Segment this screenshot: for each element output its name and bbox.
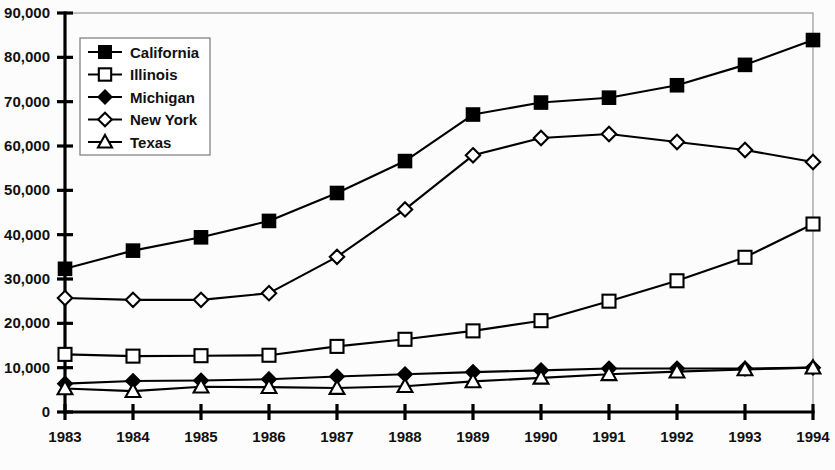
data-point-marker: [602, 127, 616, 141]
data-point-marker: [99, 46, 111, 58]
y-axis-tick-label: 70,000: [4, 93, 50, 110]
data-point-marker: [671, 274, 684, 287]
data-point-marker: [263, 349, 276, 362]
data-point-marker: [603, 91, 616, 104]
data-point-marker: [399, 333, 412, 346]
data-point-marker: [738, 143, 752, 157]
data-point-marker: [467, 108, 480, 121]
data-point-marker: [535, 96, 548, 109]
y-axis-tick-label: 20,000: [4, 314, 50, 331]
data-point-marker: [99, 68, 111, 80]
x-axis: 1983198419851986198719881989199019911992…: [48, 404, 830, 445]
data-point-marker: [127, 350, 140, 363]
series-michigan: [58, 360, 820, 390]
data-point-marker: [467, 324, 480, 337]
data-point-marker: [126, 293, 140, 307]
data-point-marker: [262, 286, 276, 300]
data-point-marker: [603, 295, 616, 308]
series-line: [65, 368, 813, 391]
y-axis-tick-label: 50,000: [4, 181, 50, 198]
data-point-marker: [331, 340, 344, 353]
data-point-marker: [59, 348, 72, 361]
chart-page: 010,00020,00030,00040,00050,00060,00070,…: [0, 0, 835, 470]
series-line: [65, 134, 813, 300]
data-point-marker: [263, 214, 276, 227]
x-axis-tick-label: 1983: [48, 428, 81, 445]
legend-item-label: Texas: [130, 134, 171, 151]
data-point-marker: [330, 250, 344, 264]
data-point-marker: [194, 293, 208, 307]
chart-legend: CaliforniaIllinoisMichiganNew YorkTexas: [80, 38, 210, 155]
data-point-marker: [127, 244, 140, 257]
data-point-marker: [399, 155, 412, 168]
data-point-marker: [58, 291, 72, 305]
x-axis-tick-label: 1987: [320, 428, 353, 445]
series-illinois: [59, 218, 820, 363]
x-axis-tick-label: 1992: [660, 428, 693, 445]
data-point-marker: [59, 262, 72, 275]
x-axis-tick-label: 1989: [456, 428, 489, 445]
series-line: [65, 224, 813, 356]
data-point-marker: [331, 186, 344, 199]
y-axis-tick-label: 0: [42, 403, 50, 420]
y-axis-tick-label: 90,000: [4, 4, 50, 21]
legend-item-california: California: [88, 44, 200, 61]
x-axis-tick-label: 1990: [524, 428, 557, 445]
x-axis-tick-label: 1985: [184, 428, 217, 445]
data-point-marker: [671, 79, 684, 92]
legend-item-illinois: Illinois: [88, 66, 178, 83]
legend-item-label: California: [130, 44, 200, 61]
y-axis-tick-label: 10,000: [4, 359, 50, 376]
legend-item-label: New York: [130, 111, 198, 128]
series-texas: [58, 360, 821, 397]
data-point-marker: [670, 135, 684, 149]
x-axis-tick-label: 1984: [116, 428, 150, 445]
legend-item-michigan: Michigan: [88, 89, 195, 106]
legend-item-label: Michigan: [130, 89, 195, 106]
x-axis-tick-label: 1988: [388, 428, 421, 445]
x-axis-tick-label: 1993: [728, 428, 761, 445]
data-point-marker: [534, 131, 548, 145]
y-axis-tick-label: 60,000: [4, 137, 50, 154]
x-axis-tick-label: 1986: [252, 428, 285, 445]
x-axis-tick-label: 1994: [796, 428, 830, 445]
data-point-marker: [739, 251, 752, 264]
y-axis-tick-label: 80,000: [4, 48, 50, 65]
data-point-marker: [739, 58, 752, 71]
data-point-marker: [535, 314, 548, 327]
data-point-marker: [195, 349, 208, 362]
data-point-marker: [806, 155, 820, 169]
y-axis-tick-label: 30,000: [4, 270, 50, 287]
x-axis-tick-label: 1991: [592, 428, 625, 445]
data-point-marker: [807, 34, 820, 47]
line-chart: 010,00020,00030,00040,00050,00060,00070,…: [0, 0, 835, 470]
legend-item-label: Illinois: [130, 66, 178, 83]
legend-item-new-york: New York: [88, 111, 198, 128]
data-point-marker: [807, 218, 820, 231]
data-point-marker: [195, 231, 208, 244]
y-axis-tick-label: 40,000: [4, 226, 50, 243]
